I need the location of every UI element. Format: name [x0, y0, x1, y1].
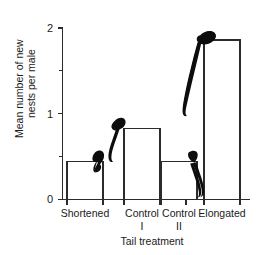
x-label-shortened: Shortened — [61, 207, 110, 219]
bar-elongated — [204, 40, 240, 200]
swallow-control-i-icon — [108, 118, 125, 162]
x-label-control-i-line-1: Control — [125, 207, 159, 219]
y-axis-title-line-2: nests per male — [25, 49, 37, 118]
x-label-elongated: Elongated — [198, 207, 245, 219]
bar-chart-figure: 0 1 2 Mean number of new nests per male — [0, 0, 258, 255]
y-tick-label-2: 2 — [47, 22, 53, 34]
x-label-control-ii-line-2: II — [176, 220, 182, 232]
x-axis-title: Tail treatment — [120, 235, 183, 247]
chart-canvas: 0 1 2 Mean number of new nests per male — [0, 0, 258, 255]
y-tick-label-1: 1 — [47, 108, 53, 120]
y-axis-title-line-1: Mean number of new — [13, 39, 25, 138]
x-label-control-i-line-2: I — [141, 220, 144, 232]
x-label-control-ii-line-1: Control — [162, 207, 196, 219]
y-tick-label-0: 0 — [47, 193, 53, 205]
bar-control-i — [124, 128, 160, 199]
